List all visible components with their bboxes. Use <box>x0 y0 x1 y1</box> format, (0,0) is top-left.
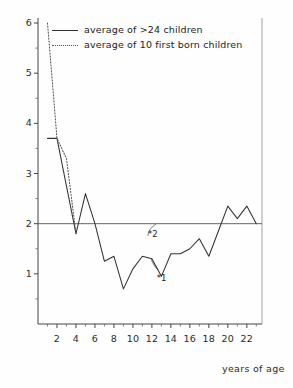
x-tick-label: 16 <box>184 334 197 344</box>
legend-solid-line-icon <box>52 25 78 35</box>
series-line-0 <box>47 138 256 289</box>
legend-label-average-over-24: average of >24 children <box>84 25 203 35</box>
x-tick-label: 14 <box>165 334 178 344</box>
data-series <box>47 23 256 289</box>
annotation-star-2: *2 <box>148 230 158 239</box>
chart-figure: average of >24 children average of 10 fi… <box>0 0 293 388</box>
legend-item-first-born: average of 10 first born children <box>52 37 262 52</box>
legend-item-average-over-24: average of >24 children <box>52 22 262 37</box>
x-tick-label: 2 <box>54 334 60 344</box>
x-tick-label: 18 <box>203 334 216 344</box>
x-tick-label: 8 <box>111 334 117 344</box>
chart-legend: average of >24 children average of 10 fi… <box>52 22 262 52</box>
legend-dotted-line-icon <box>52 40 78 50</box>
x-tick-label: 20 <box>222 334 235 344</box>
legend-label-first-born: average of 10 first born children <box>84 40 242 50</box>
axis-ticks <box>34 23 256 328</box>
chart-plot-area <box>0 0 293 388</box>
y-tick-label: 6 <box>14 18 32 28</box>
y-tick-label: 2 <box>14 219 32 229</box>
x-tick-label: 10 <box>127 334 140 344</box>
y-tick-label: 4 <box>14 119 32 129</box>
x-tick-label: 22 <box>241 334 254 344</box>
series-line-1 <box>47 23 75 234</box>
x-tick-label: 12 <box>146 334 159 344</box>
y-tick-label: 5 <box>14 68 32 78</box>
x-axis-title: years of age <box>222 364 285 374</box>
y-tick-label: 1 <box>14 269 32 279</box>
y-tick-label: 3 <box>14 169 32 179</box>
x-tick-label: 4 <box>73 334 79 344</box>
annotation-star-1: *1 <box>157 274 167 283</box>
axis-lines <box>38 18 262 324</box>
x-tick-label: 6 <box>92 334 98 344</box>
